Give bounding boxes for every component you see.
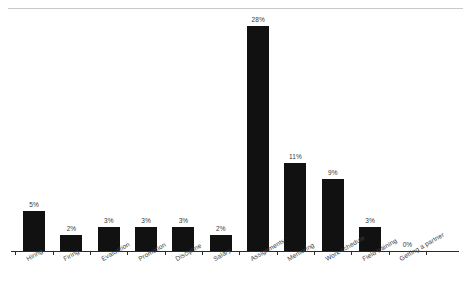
bar-group: 2% [60, 0, 82, 251]
plot-area: 5%2%3%3%3%2%28%11%9%3%0% [0, 0, 471, 252]
bar-group: 9% [322, 0, 344, 251]
bar-chart: 5%2%3%3%3%2%28%11%9%3%0% HiringFiringEva… [0, 0, 471, 303]
bar-group: 11% [284, 0, 306, 251]
bar [284, 163, 306, 251]
bar [247, 26, 269, 251]
bar-group: 3% [359, 0, 381, 251]
bar-value-label: 5% [12, 201, 56, 209]
bar-value-label: 3% [348, 217, 392, 225]
bar-group: 3% [98, 0, 120, 251]
bar-group: 2% [210, 0, 232, 251]
bar-value-label: 2% [49, 225, 93, 233]
bar-group: 0% [396, 0, 418, 251]
bar-value-label: 28% [236, 16, 280, 24]
bar-group: 5% [23, 0, 45, 251]
bar-value-label: 3% [161, 217, 205, 225]
bar [60, 235, 82, 251]
bar-group: 3% [135, 0, 157, 251]
bar [23, 211, 45, 251]
bar-group: 28% [247, 0, 269, 251]
bar-value-label: 9% [311, 169, 355, 177]
x-axis-category-labels: HiringFiringEvaluationPromotionDisciplin… [0, 252, 471, 303]
bar-value-label: 11% [273, 153, 317, 161]
bar-group: 3% [172, 0, 194, 251]
bar-value-label: 2% [199, 225, 243, 233]
bar [322, 179, 344, 251]
